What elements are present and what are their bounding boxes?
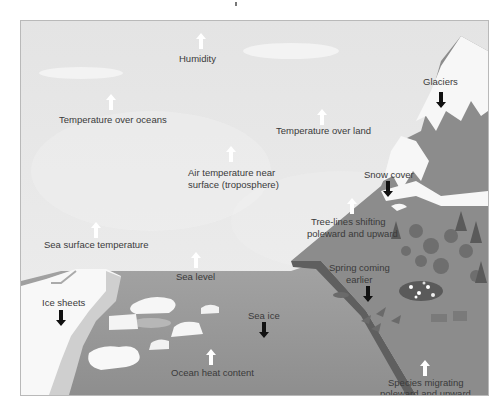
label-glaciers: Glaciers bbox=[423, 76, 458, 88]
diagram-frame: Humidity Temperature over oceans Tempera… bbox=[20, 20, 489, 396]
label-humidity: Humidity bbox=[179, 53, 216, 65]
label-spring-coming-line1: Spring coming bbox=[329, 262, 390, 274]
label-air-temperature-line1: Air temperature near bbox=[188, 167, 275, 179]
scene-illustration bbox=[21, 21, 488, 395]
arrow-up-icon bbox=[191, 252, 201, 268]
label-temperature-over-oceans: Temperature over oceans bbox=[59, 114, 167, 126]
arrow-up-icon bbox=[91, 222, 101, 238]
label-snow-cover: Snow cover bbox=[364, 169, 414, 181]
label-sea-level: Sea level bbox=[176, 271, 215, 283]
arrow-up-icon bbox=[206, 349, 216, 365]
arrow-up-icon bbox=[420, 360, 430, 376]
label-tree-lines-line2: poleward and upward bbox=[307, 228, 398, 240]
arrow-up-icon bbox=[226, 146, 236, 162]
label-species-migrating-line2: poleward and upward bbox=[380, 388, 471, 396]
arrow-down-icon bbox=[363, 286, 373, 302]
label-temperature-over-land: Temperature over land bbox=[276, 125, 371, 137]
arrow-up-icon bbox=[347, 198, 357, 214]
arrow-down-icon bbox=[259, 322, 269, 338]
arrow-down-icon bbox=[383, 181, 393, 197]
label-sea-surface-temperature: Sea surface temperature bbox=[44, 239, 149, 251]
label-spring-coming-line2: earlier bbox=[346, 274, 372, 286]
arrow-up-icon bbox=[106, 94, 116, 110]
arrow-up-icon bbox=[317, 109, 327, 125]
stray-mark bbox=[235, 2, 237, 6]
arrow-down-icon bbox=[436, 92, 446, 108]
arrow-up-icon bbox=[196, 33, 206, 49]
label-sea-ice: Sea ice bbox=[248, 310, 280, 322]
label-tree-lines-line1: Tree-lines shifting bbox=[311, 216, 386, 228]
arrow-down-icon bbox=[56, 310, 66, 326]
flower-patch bbox=[399, 281, 443, 301]
label-ocean-heat-content: Ocean heat content bbox=[171, 367, 254, 379]
label-air-temperature-line2: surface (troposphere) bbox=[188, 179, 279, 191]
label-ice-sheets: Ice sheets bbox=[42, 297, 85, 309]
